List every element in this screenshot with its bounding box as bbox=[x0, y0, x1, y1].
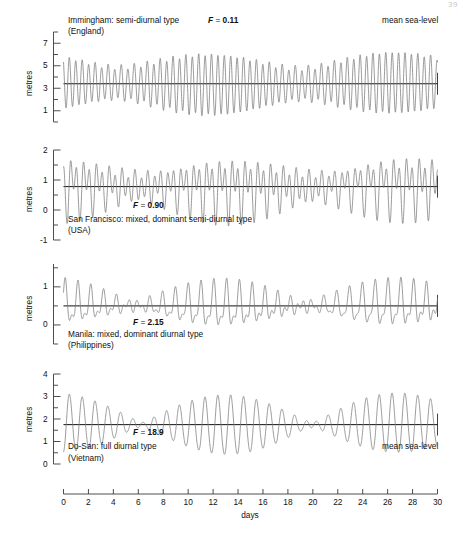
f-number-san-francisco: 0.90 bbox=[148, 200, 164, 210]
x-axis-title: days bbox=[220, 510, 280, 520]
x-tick-label: 30 bbox=[430, 497, 446, 507]
f-symbol-san-francisco: F bbox=[133, 200, 138, 210]
y-axis-label-manila: metres bbox=[24, 296, 34, 321]
f-symbol-immingham: F bbox=[208, 15, 213, 25]
f-number-manila: 2.15 bbox=[148, 317, 164, 327]
y-tick-label: 3 bbox=[34, 83, 48, 93]
caption-do-san-line2: (Vietnam) bbox=[68, 453, 104, 464]
f-number-immingham: 0.11 bbox=[223, 15, 239, 25]
x-tick-label: 18 bbox=[280, 497, 296, 507]
panel-do-san: F = 18.9 Do-San: full diurnal type (Viet… bbox=[0, 358, 470, 476]
y-tick-label: 1 bbox=[34, 281, 48, 291]
caption-san-francisco-line2: (USA) bbox=[68, 225, 91, 236]
y-tick-label: 0 bbox=[34, 459, 48, 469]
f-number-do-san: 18.9 bbox=[148, 427, 164, 437]
y-axis-label-san-francisco: metres bbox=[24, 187, 34, 212]
x-tick-label: 26 bbox=[380, 497, 396, 507]
f-value-san-francisco: F = 0.90 bbox=[133, 200, 164, 210]
y-tick-label: 1 bbox=[34, 105, 48, 115]
x-tick-label: 6 bbox=[130, 497, 146, 507]
x-tick-label: 8 bbox=[155, 497, 171, 507]
panel-manila: F = 2.15 Manila: mixed, dominant diurnal… bbox=[0, 258, 470, 358]
y-tick-label: 0 bbox=[34, 205, 48, 215]
x-tick-label: 28 bbox=[405, 497, 421, 507]
y-tick-label: 5 bbox=[34, 60, 48, 70]
tide-curves-figure: Immingham: semi-diurnal type (England) F… bbox=[0, 0, 470, 535]
f-equals-immingham: = bbox=[215, 15, 220, 25]
caption-immingham-line2: (England) bbox=[68, 26, 104, 37]
x-tick-label: 12 bbox=[205, 497, 221, 507]
caption-san-francisco-line1: San Francisco: mixed, dominant semi-diur… bbox=[68, 214, 252, 225]
x-tick-label: 20 bbox=[305, 497, 321, 507]
f-equals-manila: = bbox=[140, 317, 145, 327]
y-tick-label: 2 bbox=[34, 414, 48, 424]
caption-do-san-line1: Do-San: full diurnal type bbox=[68, 441, 157, 452]
x-tick-label: 14 bbox=[230, 497, 246, 507]
f-symbol-manila: F bbox=[133, 317, 138, 327]
x-tick-label: 24 bbox=[355, 497, 371, 507]
y-tick-label: 0 bbox=[34, 319, 48, 329]
x-tick-label: 0 bbox=[56, 497, 72, 507]
f-equals-do-san: = bbox=[140, 427, 145, 437]
y-tick-label: 4 bbox=[34, 369, 48, 379]
mean-sea-level-label-immingham: mean sea-level bbox=[382, 15, 438, 25]
x-tick-label: 2 bbox=[80, 497, 96, 507]
y-tick-label: 1 bbox=[34, 436, 48, 446]
y-tick-label: 2 bbox=[34, 145, 48, 155]
y-tick-label: -1 bbox=[34, 235, 48, 245]
mean-sea-level-label-do-san: mean sea-level bbox=[382, 441, 438, 451]
f-symbol-do-san: F bbox=[133, 427, 138, 437]
y-axis-label-do-san: metres bbox=[24, 407, 34, 432]
y-tick-label: 1 bbox=[34, 175, 48, 185]
y-axis-label-immingham: metres bbox=[24, 71, 34, 96]
x-tick-label: 4 bbox=[105, 497, 121, 507]
panel-immingham: Immingham: semi-diurnal type (England) F… bbox=[0, 18, 470, 130]
f-equals-san-francisco: = bbox=[140, 200, 145, 210]
x-tick-label: 22 bbox=[330, 497, 346, 507]
x-tick-label: 10 bbox=[180, 497, 196, 507]
panel-san-francisco: F = 0.90 San Francisco: mixed, dominant … bbox=[0, 140, 470, 252]
caption-immingham-line1: Immingham: semi-diurnal type bbox=[68, 15, 179, 26]
f-value-do-san: F = 18.9 bbox=[133, 427, 164, 437]
x-tick-label: 16 bbox=[255, 497, 271, 507]
caption-manila-line2: (Philippines) bbox=[68, 340, 114, 351]
y-tick-label: 7 bbox=[34, 38, 48, 48]
caption-manila-line1: Manila: mixed, dominant diurnal type bbox=[68, 329, 203, 340]
f-value-manila: F = 2.15 bbox=[133, 317, 164, 327]
y-tick-label: 3 bbox=[34, 391, 48, 401]
f-value-immingham: F = 0.11 bbox=[208, 15, 238, 25]
